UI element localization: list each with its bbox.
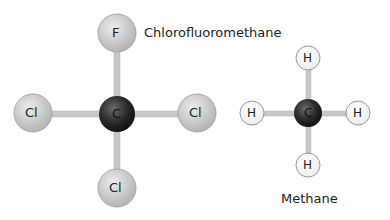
atom-symbol-c-methane: C (304, 106, 312, 120)
molecule-label-chlorofluoromethane: Chlorofluoromethane (144, 25, 282, 40)
atom-symbol-cl-left: Cl (25, 105, 38, 120)
atom-symbol-cl-right: Cl (189, 105, 202, 120)
molecule-diagram: F Cl Cl Cl C H H H H C Chlorofluorometha… (0, 0, 390, 220)
atom-symbol-h-right: H (353, 106, 362, 120)
atom-symbol-h-left: H (247, 106, 256, 120)
atom-symbol-c: C (112, 106, 121, 121)
molecule-label-methane: Methane (281, 191, 338, 206)
atom-symbol-h-bottom: H (303, 158, 312, 172)
atom-symbol-h-top: H (303, 51, 312, 65)
atom-symbol-cl-bottom: Cl (109, 180, 122, 195)
atom-symbol-f: F (112, 25, 119, 40)
